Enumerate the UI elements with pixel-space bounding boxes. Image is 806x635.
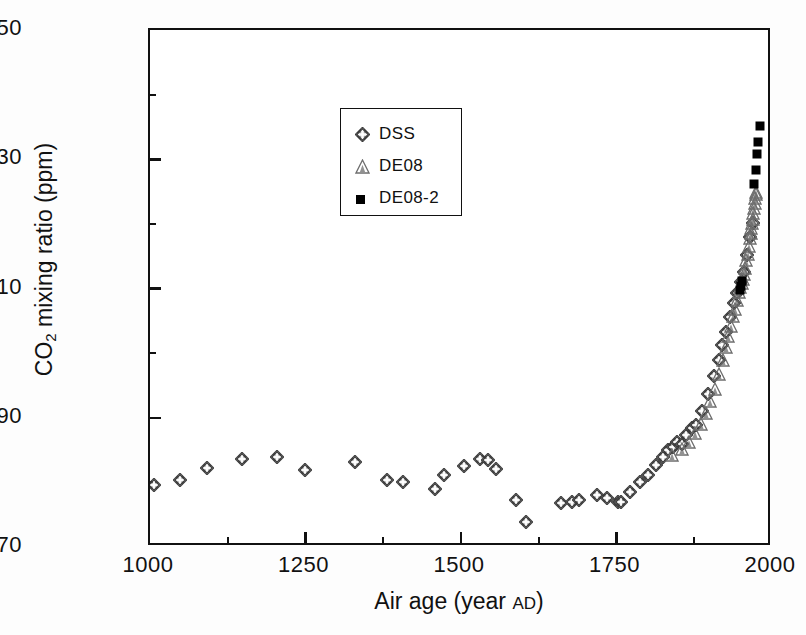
legend-item-de08-2: DE08-2 bbox=[355, 182, 461, 214]
y-axis-tick-label: 290 bbox=[0, 403, 22, 429]
y-axis-title-subscript: 2 bbox=[42, 333, 59, 341]
data-point-dss bbox=[150, 478, 161, 492]
legend: DSS DE08 DE08-2 bbox=[340, 108, 462, 216]
legend-item-de08: DE08 bbox=[355, 150, 461, 182]
y-axis-title-suffix: mixing ratio (ppm) bbox=[31, 143, 57, 333]
y-axis-title: CO2 mixing ratio (ppm) bbox=[31, 0, 58, 540]
x-axis-tick-label: 1500 bbox=[414, 552, 504, 578]
data-point-de08-2 bbox=[748, 178, 759, 189]
data-point-dss bbox=[200, 461, 214, 475]
x-axis-title-prefix: Air age (year bbox=[374, 588, 512, 614]
data-point-dss bbox=[428, 482, 442, 496]
data-point-de08-2 bbox=[753, 137, 764, 148]
data-point-dss bbox=[457, 459, 471, 473]
data-point-dss bbox=[489, 462, 503, 476]
y-axis-title-prefix: CO bbox=[31, 342, 57, 377]
data-point-dss bbox=[380, 473, 394, 487]
y-axis-tick-label: 310 bbox=[0, 274, 22, 300]
x-axis-title-smallcaps: AD bbox=[512, 594, 536, 613]
data-point-dss bbox=[396, 475, 410, 489]
data-point-de08-2 bbox=[752, 149, 763, 160]
data-point-de08-2 bbox=[750, 164, 761, 175]
x-axis-title-suffix: ) bbox=[536, 588, 544, 614]
x-axis-tick-label: 1750 bbox=[570, 552, 660, 578]
legend-label-dss: DSS bbox=[379, 124, 415, 144]
x-axis-title: Air age (year AD) bbox=[148, 588, 770, 615]
data-point-dss bbox=[235, 452, 249, 466]
data-point-de08-2 bbox=[737, 275, 748, 286]
x-axis-tick-label: 1000 bbox=[103, 552, 193, 578]
legend-label-de08: DE08 bbox=[379, 156, 423, 176]
co2-ice-core-figure: CO2 mixing ratio (ppm) Air age (year AD)… bbox=[0, 0, 806, 635]
legend-item-dss: DSS bbox=[355, 118, 461, 150]
data-point-dss bbox=[572, 493, 586, 507]
y-axis-tick-label: 270 bbox=[0, 532, 22, 558]
data-point-dss bbox=[173, 473, 187, 487]
x-axis-tick-label: 1250 bbox=[259, 552, 349, 578]
legend-label-de08-2: DE08-2 bbox=[379, 188, 439, 208]
x-axis-tick-label: 2000 bbox=[725, 552, 806, 578]
data-point-dss bbox=[437, 468, 451, 482]
y-axis-tick-label: 330 bbox=[0, 144, 22, 170]
plot-area: DSS DE08 DE08-2 bbox=[148, 28, 770, 545]
data-point-de08 bbox=[708, 382, 722, 396]
filled-square-icon bbox=[355, 191, 370, 206]
triangle-icon bbox=[355, 159, 370, 174]
data-point-de08 bbox=[712, 367, 726, 381]
data-point-dss bbox=[509, 493, 523, 507]
data-point-dss bbox=[270, 450, 284, 464]
data-point-dss bbox=[298, 463, 312, 477]
diamond-cross-icon bbox=[355, 127, 370, 142]
data-point-de08 bbox=[716, 353, 730, 367]
data-point-de08-2 bbox=[754, 120, 765, 131]
data-point-dss bbox=[348, 455, 362, 469]
y-axis-tick-label: 350 bbox=[0, 15, 22, 41]
data-points-layer bbox=[150, 30, 768, 543]
data-point-dss bbox=[519, 515, 533, 529]
